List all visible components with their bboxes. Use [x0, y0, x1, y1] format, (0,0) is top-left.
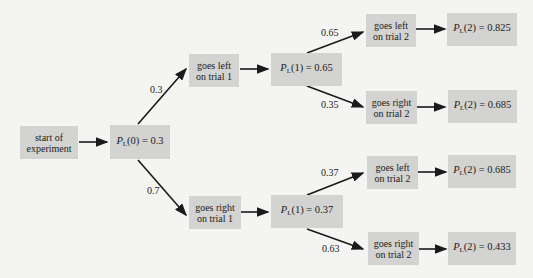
p2-aa-label: PL(2) = 0.825	[453, 22, 511, 37]
left-trial2-b-node: goes left on trial 2	[367, 156, 418, 189]
edge-label-p1l-left: 0.65	[321, 27, 339, 38]
p2-bb-label: PL(2) = 0.433	[453, 241, 511, 256]
p0-label: PL(0) = 0.3	[116, 135, 163, 150]
p2-ba-node: PL(2) = 0.685	[448, 155, 516, 188]
p2-bb-node: PL(2) = 0.433	[448, 232, 516, 265]
right-trial1-node: goes right on trial 1	[189, 196, 241, 229]
right-trial2-a-node: goes right on trial 2	[366, 91, 417, 124]
p2-ba-label: PL(2) = 0.685	[453, 164, 511, 179]
p1-left-label: PL(1) = 0.65	[280, 62, 333, 77]
edge-label-p1r-left: 0.37	[321, 167, 339, 178]
left2b-label: goes left on trial 2	[371, 162, 415, 184]
p2-ab-node: PL(2) = 0.685	[448, 90, 517, 123]
left-trial1-node: goes left on trial 1	[189, 54, 239, 87]
right-trial2-b-node: goes right on trial 2	[368, 232, 419, 265]
p1-right-label: PL(1) = 0.37	[281, 204, 334, 219]
right1-label: goes right on trial 1	[192, 202, 238, 224]
right2a-label: goes right on trial 2	[369, 97, 415, 119]
edge-label-p1l-right: 0.35	[321, 99, 339, 110]
p2-ab-label: PL(2) = 0.685	[454, 99, 512, 114]
p0-node: PL(0) = 0.3	[110, 125, 170, 159]
edge-label-p0-right: 0.7	[147, 185, 160, 196]
right2b-label: goes right on trial 2	[371, 238, 417, 260]
start-node: start of experiment	[20, 126, 78, 159]
p2-aa-node: PL(2) = 0.825	[447, 13, 517, 46]
start-label: start of experiment	[26, 132, 72, 154]
p1-right-node: PL(1) = 0.37	[271, 195, 343, 228]
left1-label: goes left on trial 1	[192, 60, 236, 82]
left2a-label: goes left on trial 2	[369, 20, 413, 42]
p1-left-node: PL(1) = 0.65	[271, 53, 342, 86]
left-trial2-a-node: goes left on trial 2	[366, 14, 416, 47]
edge-label-p0-left: 0.3	[150, 84, 163, 95]
edge-label-p1r-right: 0.63	[322, 243, 340, 254]
